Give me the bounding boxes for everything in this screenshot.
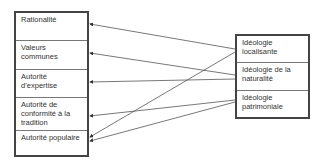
arrow-naturalite-valeurs — [90, 53, 235, 75]
arrow-localisante-populaire — [90, 52, 235, 137]
arrow-naturalite-expertise — [90, 79, 235, 82]
connection-arrows — [0, 0, 323, 167]
arrow-localisante-rationalite — [90, 24, 235, 49]
